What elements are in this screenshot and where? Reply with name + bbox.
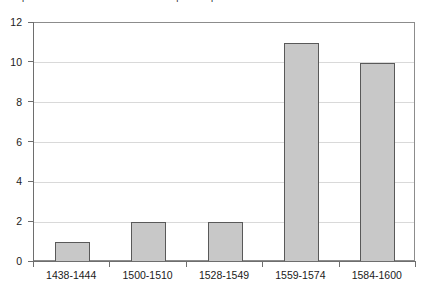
chart-title: Graph of absolute number of bedrooms per…: [6, 0, 249, 2]
x-tick-label: 1528-1549: [186, 270, 262, 281]
x-tick-label: 1438-1444: [33, 270, 109, 281]
y-tick-label: 0: [0, 256, 22, 267]
x-tick-label: 1500-1510: [109, 270, 185, 281]
y-axis-line: [33, 22, 34, 262]
y-tick-label: 12: [0, 17, 22, 28]
x-tick-mark: [415, 262, 416, 267]
bar-chart-figure: Graph of absolute number of bedrooms per…: [0, 0, 430, 290]
y-tick-label: 4: [0, 176, 22, 187]
x-axis-line: [33, 261, 416, 262]
y-tick-label: 6: [0, 137, 22, 148]
gridline: [34, 182, 414, 183]
y-tick-mark: [28, 141, 33, 142]
bar: [360, 63, 395, 262]
y-tick-label: 8: [0, 97, 22, 108]
bar: [131, 222, 166, 262]
gridline: [34, 62, 414, 63]
bar: [55, 242, 90, 262]
x-tick-mark: [186, 262, 187, 267]
bar: [208, 222, 243, 262]
y-tick-mark: [28, 181, 33, 182]
x-tick-mark: [262, 262, 263, 267]
x-tick-label: 1559-1574: [262, 270, 338, 281]
y-tick-label: 2: [0, 216, 22, 227]
y-tick-mark: [28, 61, 33, 62]
gridline: [34, 142, 414, 143]
gridline: [34, 102, 414, 103]
y-tick-mark: [28, 22, 33, 23]
x-tick-mark: [109, 262, 110, 267]
bar: [284, 43, 319, 262]
plot-area: [33, 22, 415, 261]
y-tick-label: 10: [0, 57, 22, 68]
y-tick-mark: [28, 101, 33, 102]
x-tick-label: 1584-1600: [339, 270, 415, 281]
y-tick-mark: [28, 221, 33, 222]
x-tick-mark: [33, 262, 34, 267]
x-tick-mark: [339, 262, 340, 267]
